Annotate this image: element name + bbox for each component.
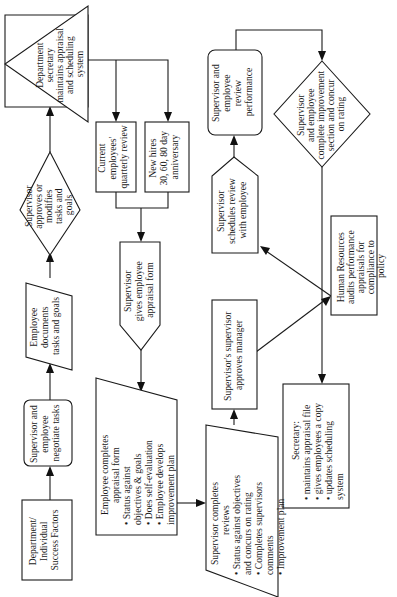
arrowhead-icon (196, 499, 206, 507)
edge-hr-to-schedules (266, 251, 331, 296)
edge-merge-reviews (116, 192, 168, 208)
arrowhead-icon (318, 374, 326, 384)
arrowhead-icon (46, 466, 54, 476)
label-hr-audits: Human Resources audits performance appra… (335, 228, 386, 304)
label-documents-tasks: Employee documents tasks and goals (28, 297, 61, 355)
edge-supsup-to-hr (256, 300, 325, 352)
arrowhead-icon (230, 135, 238, 145)
arrowhead-icon (112, 112, 120, 122)
arrowhead-icon (318, 51, 326, 61)
arrowhead-icon (230, 409, 238, 419)
label-gives-form: Supervisor gives employee appraisal form (122, 259, 155, 321)
label-new-hires: New hires 30, 60, 80 day anniversary (147, 128, 180, 185)
edge-secretary-to-newhires (88, 60, 168, 116)
arrowhead-icon (164, 112, 172, 122)
arrowhead-icon (260, 246, 270, 255)
arrowhead-icon (137, 232, 145, 242)
appraisal-flowchart: Department/ Individual Success Factors S… (0, 0, 397, 597)
label-supsup-approves: Supervisor's supervisor approves manager (222, 309, 244, 401)
